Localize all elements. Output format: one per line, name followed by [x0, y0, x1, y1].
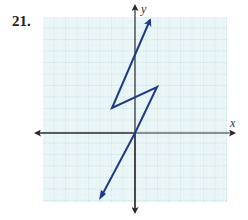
- coordinate-graph: x y: [0, 0, 248, 220]
- x-axis-label: x: [229, 116, 236, 130]
- y-axis-label: y: [140, 2, 147, 16]
